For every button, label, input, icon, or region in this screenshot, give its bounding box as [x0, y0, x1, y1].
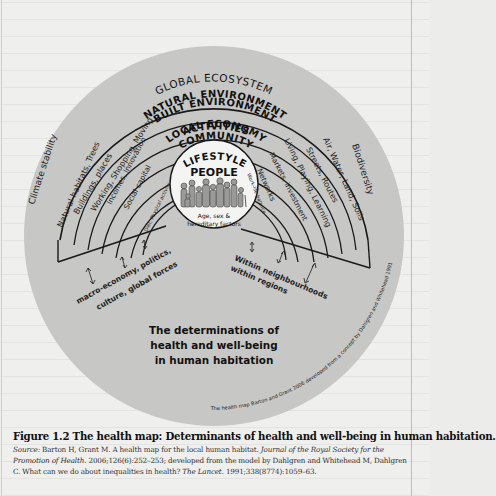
- figure-caption: Figure 1.2 The health map: Determinants …: [13, 430, 413, 477]
- center-label-people: PEOPLE: [190, 166, 238, 179]
- figure-label: Figure 1.2: [13, 430, 69, 442]
- center-sublabel-2: hereditary factors: [187, 220, 241, 228]
- main-text-line-3: in human habitation: [155, 354, 274, 366]
- caption-source: Source: Barton H, Grant M. A health map …: [13, 444, 413, 477]
- center-sublabel-1: Age, sex &: [198, 212, 231, 220]
- source-text-3: . 1991;338(8774):1059–63.: [222, 467, 317, 476]
- main-text-line-2: health and well-being: [150, 339, 277, 351]
- figure-title: The health map: Determinants of health a…: [73, 430, 496, 442]
- caption-title: Figure 1.2 The health map: Determinants …: [13, 430, 413, 442]
- main-text-line-1: The determinations of: [149, 324, 280, 336]
- health-map-diagram: GLOBAL ECOSYSTEM NATURAL ENVIRONMENT BUI…: [0, 0, 429, 430]
- source-text-1: Barton H, Grant M. A health map for the …: [40, 445, 261, 454]
- source-journal-2: The Lancet: [182, 467, 221, 476]
- source-label: Source:: [13, 445, 40, 454]
